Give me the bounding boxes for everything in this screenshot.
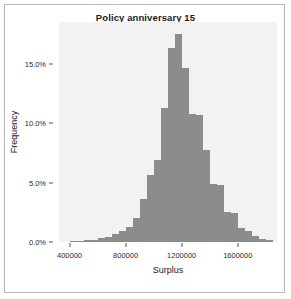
histogram-bar	[196, 115, 203, 242]
histogram-figure: Policy anniversary 15 0.0%5.0%10.0%15.0%…	[0, 0, 291, 299]
histogram-bar	[175, 34, 182, 242]
x-tick-mark	[69, 243, 70, 247]
x-tick-label: 800000	[113, 251, 138, 260]
y-tick-mark	[49, 63, 53, 64]
histogram-bar	[238, 228, 245, 242]
histogram-bar	[140, 199, 147, 242]
histogram-bar	[217, 185, 224, 242]
histogram-bar	[189, 114, 196, 242]
histogram-bar	[245, 231, 252, 242]
histogram-bar	[168, 48, 175, 242]
x-tick-mark	[181, 243, 182, 247]
y-tick-mark	[49, 182, 53, 183]
x-tick-label: 1200000	[167, 251, 196, 260]
x-tick-mark	[237, 243, 238, 247]
histogram-bar	[154, 160, 161, 242]
histogram-bar	[119, 231, 126, 242]
y-axis-label: Frequency	[9, 111, 19, 154]
histogram-bars	[59, 22, 277, 242]
x-tick-label: 400000	[57, 251, 82, 260]
histogram-bar	[133, 218, 140, 242]
histogram-bar	[231, 213, 238, 242]
y-tick-label: 5.0%	[29, 178, 46, 187]
y-tick-mark	[49, 242, 53, 243]
histogram-bar	[224, 212, 231, 242]
y-tick-label: 15.0%	[25, 59, 46, 68]
histogram-bar	[126, 227, 133, 242]
histogram-bar	[182, 68, 189, 242]
x-axis-label: Surplus	[59, 265, 277, 275]
y-tick-mark	[49, 123, 53, 124]
histogram-bar	[161, 108, 168, 242]
y-tick-label: 0.0%	[29, 238, 46, 247]
histogram-bar	[210, 184, 217, 242]
x-tick-label: 1600000	[223, 251, 252, 260]
plot-panel	[59, 22, 277, 242]
histogram-bar	[112, 234, 119, 242]
histogram-bar	[203, 150, 210, 242]
histogram-bar	[147, 175, 154, 242]
y-tick-label: 10.0%	[25, 119, 46, 128]
x-tick-mark	[125, 243, 126, 247]
